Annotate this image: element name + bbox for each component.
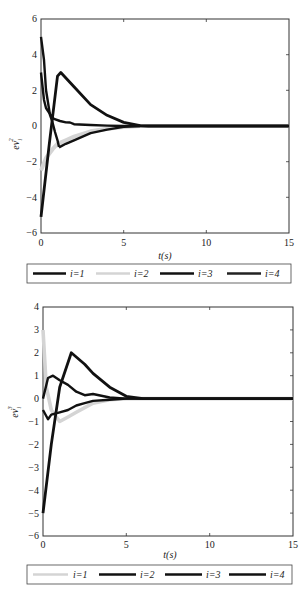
plot-2: 4 3 2 1 0 −1 −2 −3 −4 −5 −6 0 5 10 15 t(… bbox=[6, 301, 298, 561]
plot-1: 6 4 2 0 −2 −4 −6 0 5 10 15 t(s) evi2 bbox=[7, 13, 294, 262]
legend-2-label-i2: i=2 bbox=[140, 569, 155, 580]
svg-text:15: 15 bbox=[288, 539, 298, 550]
plot-1-series-i1 bbox=[41, 73, 289, 127]
legend-1-label-i4: i=4 bbox=[265, 268, 280, 279]
legend-1-label-i3: i=3 bbox=[198, 268, 213, 279]
svg-text:2: 2 bbox=[32, 85, 37, 96]
plot-2-series-i3 bbox=[43, 376, 293, 399]
svg-text:−6: −6 bbox=[26, 227, 37, 238]
plot-2-ticks bbox=[126, 307, 293, 536]
plot-2-series-i4 bbox=[43, 353, 293, 513]
plot-1-xtick-labels: 0 5 10 15 bbox=[39, 237, 295, 248]
svg-text:−6: −6 bbox=[28, 530, 39, 541]
svg-text:10: 10 bbox=[201, 237, 211, 248]
svg-text:5: 5 bbox=[124, 539, 129, 550]
svg-text:0: 0 bbox=[41, 539, 46, 550]
plot-2-curves bbox=[43, 330, 293, 513]
plot-1-series-i2 bbox=[41, 126, 289, 171]
svg-text:1: 1 bbox=[34, 370, 39, 381]
legend-2-label-i4: i=4 bbox=[270, 569, 285, 580]
plot-1-legend: i=1 i=2 i=3 i=4 bbox=[27, 264, 291, 283]
svg-text:−1: −1 bbox=[28, 416, 39, 427]
svg-text:0: 0 bbox=[32, 120, 37, 131]
svg-text:−4: −4 bbox=[28, 485, 39, 496]
legend-2-label-i3: i=3 bbox=[206, 569, 221, 580]
svg-text:evi2: evi2 bbox=[7, 138, 24, 150]
svg-text:15: 15 bbox=[284, 237, 294, 248]
svg-text:2: 2 bbox=[34, 347, 39, 358]
svg-text:10: 10 bbox=[205, 539, 215, 550]
svg-text:−2: −2 bbox=[26, 156, 37, 167]
svg-text:4: 4 bbox=[32, 49, 37, 60]
svg-text:−2: −2 bbox=[28, 439, 39, 450]
svg-text:−5: −5 bbox=[28, 508, 39, 519]
legend-1-label-i1: i=1 bbox=[70, 268, 85, 279]
svg-text:3: 3 bbox=[34, 324, 39, 335]
svg-text:6: 6 bbox=[32, 13, 37, 24]
svg-text:evi3: evi3 bbox=[6, 406, 23, 418]
plot-1-xlabel: t(s) bbox=[158, 250, 172, 262]
legend-2-label-i1: i=1 bbox=[73, 569, 88, 580]
legend-1-label-i2: i=2 bbox=[134, 268, 149, 279]
svg-text:5: 5 bbox=[121, 237, 126, 248]
svg-text:−4: −4 bbox=[26, 192, 37, 203]
plot-2-xlabel: t(s) bbox=[163, 549, 177, 561]
plot-2-ytick-labels: 4 3 2 1 0 −1 −2 −3 −4 −5 −6 bbox=[28, 301, 39, 541]
svg-text:0: 0 bbox=[34, 393, 39, 404]
plot-1-series-i4 bbox=[41, 73, 289, 217]
plot-1-curves bbox=[41, 37, 289, 217]
figure: 6 4 2 0 −2 −4 −6 0 5 10 15 t(s) evi2 bbox=[0, 0, 305, 597]
plot-1-ytick-labels: 6 4 2 0 −2 −4 −6 bbox=[26, 13, 37, 238]
svg-text:4: 4 bbox=[34, 301, 39, 312]
plot-2-axes-box bbox=[43, 307, 293, 536]
plot-2-legend: i=1 i=2 i=3 i=4 bbox=[27, 565, 292, 584]
svg-text:0: 0 bbox=[39, 237, 44, 248]
plot-1-ylabel: evi2 bbox=[7, 138, 24, 150]
svg-text:−3: −3 bbox=[28, 462, 39, 473]
plot-2-series-i1 bbox=[43, 330, 293, 422]
plot-2-ylabel: evi3 bbox=[6, 406, 23, 418]
